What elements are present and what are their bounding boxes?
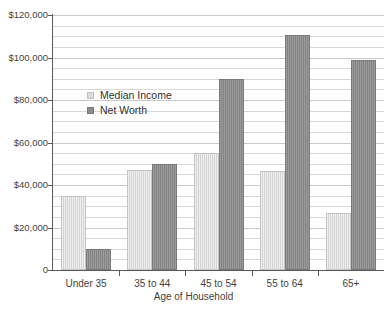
bar-networth bbox=[351, 60, 376, 270]
y-axis-tick-mark bbox=[48, 228, 53, 229]
bar-group bbox=[194, 15, 244, 270]
y-axis-tick-mark bbox=[48, 185, 53, 186]
legend-label-net-worth: Net Worth bbox=[100, 103, 147, 118]
y-axis-tick-mark bbox=[48, 143, 53, 144]
legend-label-median-income: Median Income bbox=[100, 88, 172, 103]
x-axis-tick-mark bbox=[185, 271, 186, 276]
bar-networth bbox=[285, 35, 310, 270]
bar-median bbox=[127, 170, 152, 270]
x-axis-tick-mark bbox=[318, 271, 319, 276]
bar-networth bbox=[152, 164, 177, 270]
y-axis-tick-mark bbox=[48, 15, 53, 16]
y-axis-tick-label: $120,000 bbox=[8, 10, 48, 20]
bar-group bbox=[61, 15, 111, 270]
x-axis-tick-mark bbox=[119, 271, 120, 276]
bar-median bbox=[326, 213, 351, 270]
x-axis-tick-mark bbox=[252, 271, 253, 276]
bar-median bbox=[194, 153, 219, 270]
y-axis-tick-label: $20,000 bbox=[14, 223, 48, 233]
bar-median bbox=[61, 196, 86, 270]
bar-chart: Age of Household Median Income Net Worth… bbox=[0, 0, 387, 310]
bar-group bbox=[260, 15, 310, 270]
y-axis-tick-label: $100,000 bbox=[8, 53, 48, 63]
net-worth-swatch bbox=[87, 107, 94, 114]
x-axis-title: Age of Household bbox=[0, 291, 387, 303]
y-axis-tick-label: $40,000 bbox=[14, 180, 48, 190]
bar-group bbox=[127, 15, 177, 270]
x-axis-line bbox=[52, 270, 384, 271]
y-axis-tick-mark bbox=[48, 270, 53, 271]
bar-networth bbox=[86, 249, 111, 270]
x-axis-tick-label: 65+ bbox=[311, 278, 387, 290]
median-income-swatch bbox=[87, 92, 94, 99]
bar-median bbox=[260, 171, 285, 270]
y-axis-tick-label: $80,000 bbox=[14, 95, 48, 105]
y-axis-tick-mark bbox=[48, 100, 53, 101]
y-axis-tick-label: $60,000 bbox=[14, 138, 48, 148]
bar-group bbox=[326, 15, 376, 270]
bar-networth bbox=[219, 79, 244, 270]
y-axis-tick-mark bbox=[48, 58, 53, 59]
plot-area bbox=[53, 15, 384, 270]
